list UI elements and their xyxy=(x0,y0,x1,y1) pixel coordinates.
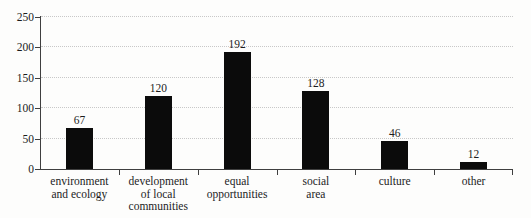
y-axis-tick xyxy=(35,17,41,18)
category-label-3: equalopportunities xyxy=(198,175,277,213)
category-label-line: equal xyxy=(198,175,277,188)
category-label-line: and ecology xyxy=(40,188,119,201)
category-label-line: social xyxy=(276,175,355,188)
category-labels-row: environmentand ecologydevelopmentof loca… xyxy=(40,175,513,213)
bar-2 xyxy=(145,96,172,169)
category-label-4: socialarea xyxy=(276,175,355,213)
category-label-line: culture xyxy=(355,175,434,188)
gridline-100 xyxy=(41,107,513,109)
category-label-line: other xyxy=(434,175,513,188)
bar-value-label: 120 xyxy=(128,82,188,94)
gridline-150 xyxy=(41,77,513,79)
y-axis-label: 200 xyxy=(17,41,34,54)
y-axis-label: 50 xyxy=(23,133,35,146)
y-axis-tick xyxy=(35,47,41,48)
y-axis-label: 100 xyxy=(17,102,34,115)
category-label-line: of local xyxy=(119,188,198,201)
bar-value-label: 67 xyxy=(49,114,109,126)
plot-area: 671201921284612 xyxy=(40,18,513,170)
bar-value-label: 12 xyxy=(444,148,504,160)
bar-5 xyxy=(381,141,408,169)
y-axis-labels: 050100150200250 xyxy=(0,18,36,170)
bar-value-label: 46 xyxy=(365,127,425,139)
bar-1 xyxy=(66,128,93,169)
y-axis-label: 250 xyxy=(17,11,34,24)
category-label-2: developmentof localcommunities xyxy=(119,175,198,213)
bar-4 xyxy=(302,91,329,169)
category-label-6: other xyxy=(434,175,513,213)
gridline-250 xyxy=(41,16,513,18)
bar-value-label: 128 xyxy=(286,77,346,89)
category-label-line: environment xyxy=(40,175,119,188)
bar-3 xyxy=(224,52,251,169)
bar-value-label: 192 xyxy=(207,38,267,50)
y-axis-label: 0 xyxy=(28,163,34,176)
y-axis-tick xyxy=(35,108,41,109)
y-axis-tick xyxy=(35,78,41,79)
gridline-200 xyxy=(41,46,513,48)
bar-chart-figure: 050100150200250 671201921284612 environm… xyxy=(0,0,531,218)
y-axis-label: 150 xyxy=(17,72,34,85)
gridline-50 xyxy=(41,138,513,140)
category-label-line: development xyxy=(119,175,198,188)
bar-6 xyxy=(460,162,487,169)
y-axis-tick xyxy=(35,169,41,170)
category-label-line: area xyxy=(276,188,355,201)
category-label-5: culture xyxy=(355,175,434,213)
category-label-line: opportunities xyxy=(198,188,277,201)
y-axis-line xyxy=(40,16,41,170)
category-label-line: communities xyxy=(119,200,198,213)
category-label-1: environmentand ecology xyxy=(40,175,119,213)
y-axis-tick xyxy=(35,139,41,140)
